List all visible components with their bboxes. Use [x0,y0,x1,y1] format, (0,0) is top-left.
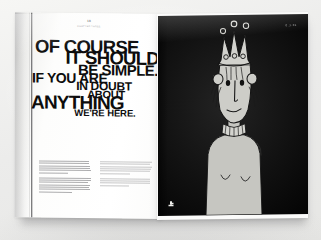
body-text-line [100,161,152,163]
body-text-line [100,173,130,174]
left-page: 18 CHAPTER THREE OF COURSE IT SHOULD BE … [15,12,163,219]
crown-tip-jewel-1 [220,28,225,33]
body-paragraph [100,161,153,174]
crown-tip-jewel-3 [243,23,248,28]
headline-block: OF COURSE IT SHOULD BE SIMPLE. IF YOU AR… [31,39,159,117]
ear-right [247,73,257,84]
body-text-line [39,177,91,179]
body-text-line [39,184,90,186]
ear-left [213,74,223,85]
crown [218,31,251,65]
body-text-line [39,160,89,161]
body-text-line [100,180,150,181]
body-text-line [39,191,72,192]
publisher-logo-icon [168,201,174,208]
body-column-right [100,161,153,197]
body-text-line [100,171,150,173]
body-text-line [39,179,91,181]
body-text-line [39,186,89,188]
body-paragraph [39,160,92,173]
left-page-header: 18 CHAPTER THREE [15,18,163,28]
body-text-line [100,178,150,179]
header-caption: CHAPTER THREE [15,24,163,29]
body-text-line [39,170,91,172]
body-text-line [39,165,90,167]
body-text-line [39,182,88,183]
body-text-line [100,182,150,183]
open-book: 18 CHAPTER THREE OF COURSE IT SHOULD BE … [15,14,308,220]
body-text-line [100,168,151,170]
crown-tip-jewel-2 [231,21,237,27]
photo-scene: 18 CHAPTER THREE OF COURSE IT SHOULD BE … [0,0,321,240]
body-text-line [39,189,90,191]
body-text-line [100,185,129,186]
right-page: 0.3.01 [157,12,308,220]
body-text-line [100,166,152,168]
page-edge-stack-outer [29,12,30,217]
crowned-figure-illustration [158,14,308,216]
body-text-line [39,172,68,173]
illustration-plate: 0.3.01 [158,14,308,216]
body-column-left [39,160,92,196]
body-text-line [100,164,150,165]
body-text-line [39,167,90,169]
body-paragraph [39,177,92,193]
body-text-columns [39,160,153,197]
body-text-line [39,163,89,164]
body-paragraph [100,178,153,187]
figure-body [206,135,262,216]
page-corner-code: 0.3.01 [286,23,297,27]
